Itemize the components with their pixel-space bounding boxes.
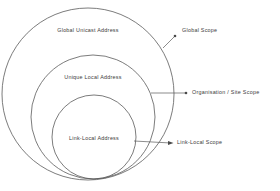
- leader-dot-global-scope: [174, 35, 177, 38]
- leader-line-global-scope: [163, 36, 175, 48]
- callout-label-link-local-scope: Link-Local Scope: [177, 139, 222, 145]
- leader-arrow-link-local-scope: [168, 141, 174, 145]
- leader-dot-organisation-site-scope: [185, 92, 188, 95]
- leader-line-link-local-scope: [134, 141, 171, 143]
- ipv6-scope-diagram: Global Unicast Address Unique Local Addr…: [0, 0, 280, 191]
- scope-diagram-canvas: Global Unicast Address Unique Local Addr…: [0, 0, 280, 191]
- ring-label-link-local: Link-Local Address: [69, 135, 119, 141]
- ring-global-unicast: [2, 8, 174, 180]
- callout-label-global-scope: Global Scope: [182, 27, 217, 33]
- ring-label-unique-local: Unique Local Address: [64, 74, 121, 80]
- callout-label-organisation-site-scope: Organisation / Site Scope: [192, 89, 259, 95]
- ring-label-global-unicast: Global Unicast Address: [57, 27, 119, 33]
